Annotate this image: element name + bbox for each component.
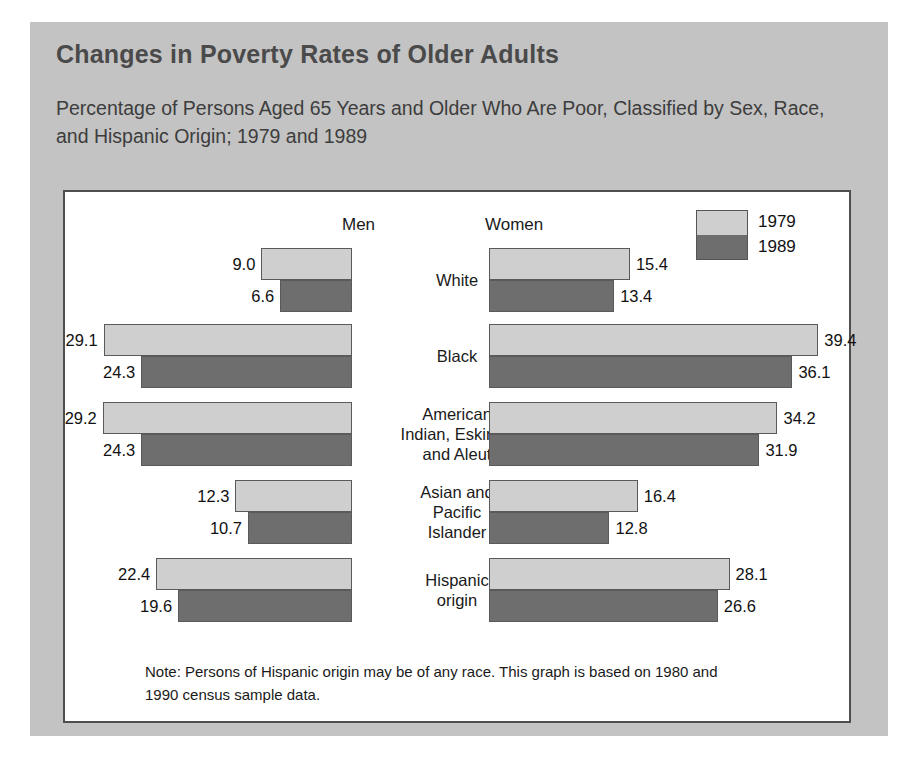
value-label-men-1979: 22.4: [108, 558, 150, 590]
value-label-women-1989: 36.1: [798, 356, 830, 388]
bar-men-1979: [103, 402, 352, 434]
value-label-women-1979: 15.4: [636, 248, 668, 280]
chart-plot-box: Men Women 1979 1989 White9.06.615.413.4B…: [63, 190, 851, 723]
value-label-women-1989: 12.8: [615, 512, 647, 544]
value-label-men-1989: 6.6: [232, 280, 274, 312]
value-label-men-1979: 29.2: [55, 402, 97, 434]
value-label-women-1979: 39.4: [824, 324, 856, 356]
bar-men-1979: [235, 480, 352, 512]
value-label-men-1979: 12.3: [187, 480, 229, 512]
bar-men-1979: [156, 558, 352, 590]
bar-women-1989: [489, 512, 609, 544]
bar-women-1989: [489, 356, 792, 388]
title-band: Changes in Poverty Rates of Older Adults: [30, 22, 888, 84]
value-label-men-1979: 9.0: [213, 248, 255, 280]
bar-men-1989: [178, 590, 352, 622]
bars-area: White9.06.615.413.4Black29.124.339.436.1…: [65, 192, 849, 721]
bar-men-1979: [104, 324, 352, 356]
bar-men-1989: [248, 512, 352, 544]
bar-group: Asian andPacificIslander12.310.716.412.8: [65, 480, 849, 544]
bar-women-1979: [489, 324, 818, 356]
bar-women-1989: [489, 434, 759, 466]
value-label-women-1989: 31.9: [765, 434, 797, 466]
value-label-women-1979: 16.4: [644, 480, 676, 512]
bar-women-1979: [489, 402, 777, 434]
bar-group: AmericanIndian, Eskimo,and Aleut29.224.3…: [65, 402, 849, 466]
value-label-men-1979: 29.1: [56, 324, 98, 356]
value-label-men-1989: 24.3: [93, 356, 135, 388]
bar-women-1979: [489, 248, 630, 280]
figure-note: Note: Persons of Hispanic origin may be …: [145, 660, 745, 706]
bar-women-1979: [489, 480, 638, 512]
bar-men-1989: [141, 434, 352, 466]
value-label-women-1989: 26.6: [724, 590, 756, 622]
bar-men-1979: [261, 248, 352, 280]
value-label-men-1989: 24.3: [93, 434, 135, 466]
bar-women-1989: [489, 280, 614, 312]
value-label-women-1989: 13.4: [620, 280, 652, 312]
figure-panel: Changes in Poverty Rates of Older Adults…: [30, 22, 888, 736]
figure-title: Changes in Poverty Rates of Older Adults: [56, 40, 559, 69]
figure-subtitle: Percentage of Persons Aged 65 Years and …: [56, 94, 846, 150]
value-label-women-1979: 28.1: [736, 558, 768, 590]
bar-men-1989: [280, 280, 352, 312]
bar-women-1989: [489, 590, 718, 622]
value-label-women-1979: 34.2: [783, 402, 815, 434]
value-label-men-1989: 19.6: [130, 590, 172, 622]
bar-group: White9.06.615.413.4: [65, 248, 849, 312]
bar-men-1989: [141, 356, 352, 388]
bar-women-1979: [489, 558, 730, 590]
bar-group: Black29.124.339.436.1: [65, 324, 849, 388]
value-label-men-1989: 10.7: [200, 512, 242, 544]
bar-group: Hispanicorigin22.419.628.126.6: [65, 558, 849, 622]
